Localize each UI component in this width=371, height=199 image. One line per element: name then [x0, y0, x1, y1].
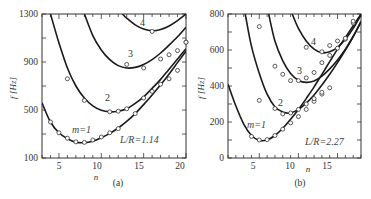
curve-label-a-3: 3	[128, 48, 133, 59]
data-marker	[65, 77, 69, 81]
data-marker	[167, 77, 171, 81]
data-marker	[328, 44, 332, 48]
y-tick-b-2: 400	[210, 81, 225, 91]
data-marker	[320, 61, 324, 65]
data-marker	[82, 140, 86, 144]
data-marker	[176, 49, 180, 53]
data-marker	[320, 90, 324, 94]
data-marker	[142, 66, 146, 70]
data-marker	[281, 112, 285, 116]
data-marker	[273, 107, 277, 111]
data-marker	[133, 112, 137, 116]
data-marker	[257, 138, 261, 142]
data-marker	[343, 36, 347, 40]
curve-m1	[42, 51, 186, 143]
y-tick-a-2: 900	[24, 57, 39, 67]
data-marker	[108, 131, 112, 135]
data-marker	[320, 50, 324, 54]
x-tick-b-0: 5	[251, 161, 256, 171]
x-tick-a-3: 20	[175, 161, 185, 171]
y-tick-b-3: 600	[210, 45, 225, 55]
data-marker	[82, 98, 86, 102]
data-marker	[328, 53, 332, 57]
curve-m2	[51, 14, 187, 112]
figure: 100 500 900 1300 5 10 15 20 n f [Hz] m=1…	[0, 0, 371, 199]
data-marker	[159, 57, 163, 61]
data-marker	[273, 64, 277, 68]
data-marker	[150, 29, 154, 33]
data-marker	[159, 82, 163, 86]
data-marker	[125, 62, 129, 66]
data-marker	[336, 39, 340, 43]
y-tick-a-3: 1300	[19, 9, 38, 19]
curve-m4	[123, 14, 187, 31]
curves-a	[42, 14, 186, 143]
x-tick-b-1: 10	[285, 161, 295, 171]
data-marker	[184, 40, 188, 44]
data-marker	[57, 131, 61, 135]
data-marker	[312, 97, 316, 101]
x-axis-label-b: n	[306, 164, 311, 174]
y-axis-label-a: f [Hz]	[8, 77, 18, 99]
y-axis-label-b: f [Hz]	[196, 77, 206, 99]
data-marker	[289, 79, 293, 83]
y-tick-a-0: 100	[24, 153, 39, 163]
data-marker	[65, 136, 69, 140]
data-marker	[249, 134, 253, 138]
data-marker	[296, 107, 300, 111]
x-tick-a-0: 5	[57, 161, 62, 171]
data-marker	[176, 68, 180, 72]
ratio-annotation-a: L/R=1.14	[119, 134, 159, 145]
panel-label-b: (b)	[294, 178, 305, 189]
data-marker	[48, 120, 52, 124]
x-tick-a-2: 15	[134, 161, 144, 171]
data-marker	[296, 79, 300, 83]
data-marker	[116, 127, 120, 131]
y-tick-a-1: 500	[24, 105, 39, 115]
data-marker	[116, 109, 120, 113]
curve-label-a-m1: m=1	[72, 124, 91, 135]
panel-label-a: (a)	[113, 178, 124, 189]
data-marker	[296, 115, 300, 119]
data-marker	[336, 46, 340, 50]
curve-label-b-2: 2	[278, 97, 283, 108]
curve-label-b-m1: m=1	[247, 119, 266, 130]
chart-panel-a: 100 500 900 1300 5 10 15 20 n f [Hz] m=1…	[8, 9, 188, 189]
data-marker	[351, 19, 355, 23]
data-marker	[289, 121, 293, 125]
data-marker	[142, 96, 146, 100]
data-marker	[108, 110, 112, 114]
ratio-annotation-b: L/R=2.27	[304, 136, 345, 147]
x-tick-b-2: 15	[322, 161, 332, 171]
y-tick-b-0: 0	[219, 153, 224, 163]
data-marker	[91, 138, 95, 142]
x-axis-label-a: n	[94, 172, 99, 182]
curve-label-b-3: 3	[297, 65, 302, 76]
curve-label-a-4: 4	[140, 17, 145, 28]
data-marker	[304, 45, 308, 49]
data-marker	[281, 72, 285, 76]
chart-panel-b: 0 200 400 600 800 5 10 15 n f [Hz] m=1 2…	[196, 9, 361, 189]
y-tick-b-1: 200	[210, 117, 225, 127]
data-marker	[150, 89, 154, 93]
data-marker	[289, 111, 293, 115]
data-marker	[257, 25, 261, 29]
curve-label-a-2: 2	[105, 92, 110, 103]
data-marker	[125, 107, 129, 111]
data-marker	[265, 138, 269, 142]
x-tick-a-1: 10	[92, 161, 102, 171]
data-marker	[281, 127, 285, 131]
curve-label-b-4: 4	[311, 36, 316, 47]
data-marker	[312, 71, 316, 75]
data-marker	[304, 76, 308, 80]
data-marker	[304, 107, 308, 111]
data-marker	[74, 140, 78, 144]
data-marker	[99, 135, 103, 139]
data-marker	[257, 98, 261, 102]
curve-m3	[84, 14, 186, 68]
data-marker	[167, 53, 171, 57]
data-marker	[328, 86, 332, 90]
data-marker	[304, 102, 308, 106]
y-tick-b-4: 800	[210, 9, 225, 19]
curve-m2	[245, 14, 361, 113]
